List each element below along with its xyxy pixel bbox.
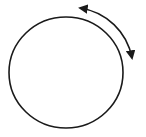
- diagram-svg: [0, 0, 146, 137]
- circle-shape: [9, 17, 123, 128]
- rotation-diagram: [0, 0, 146, 137]
